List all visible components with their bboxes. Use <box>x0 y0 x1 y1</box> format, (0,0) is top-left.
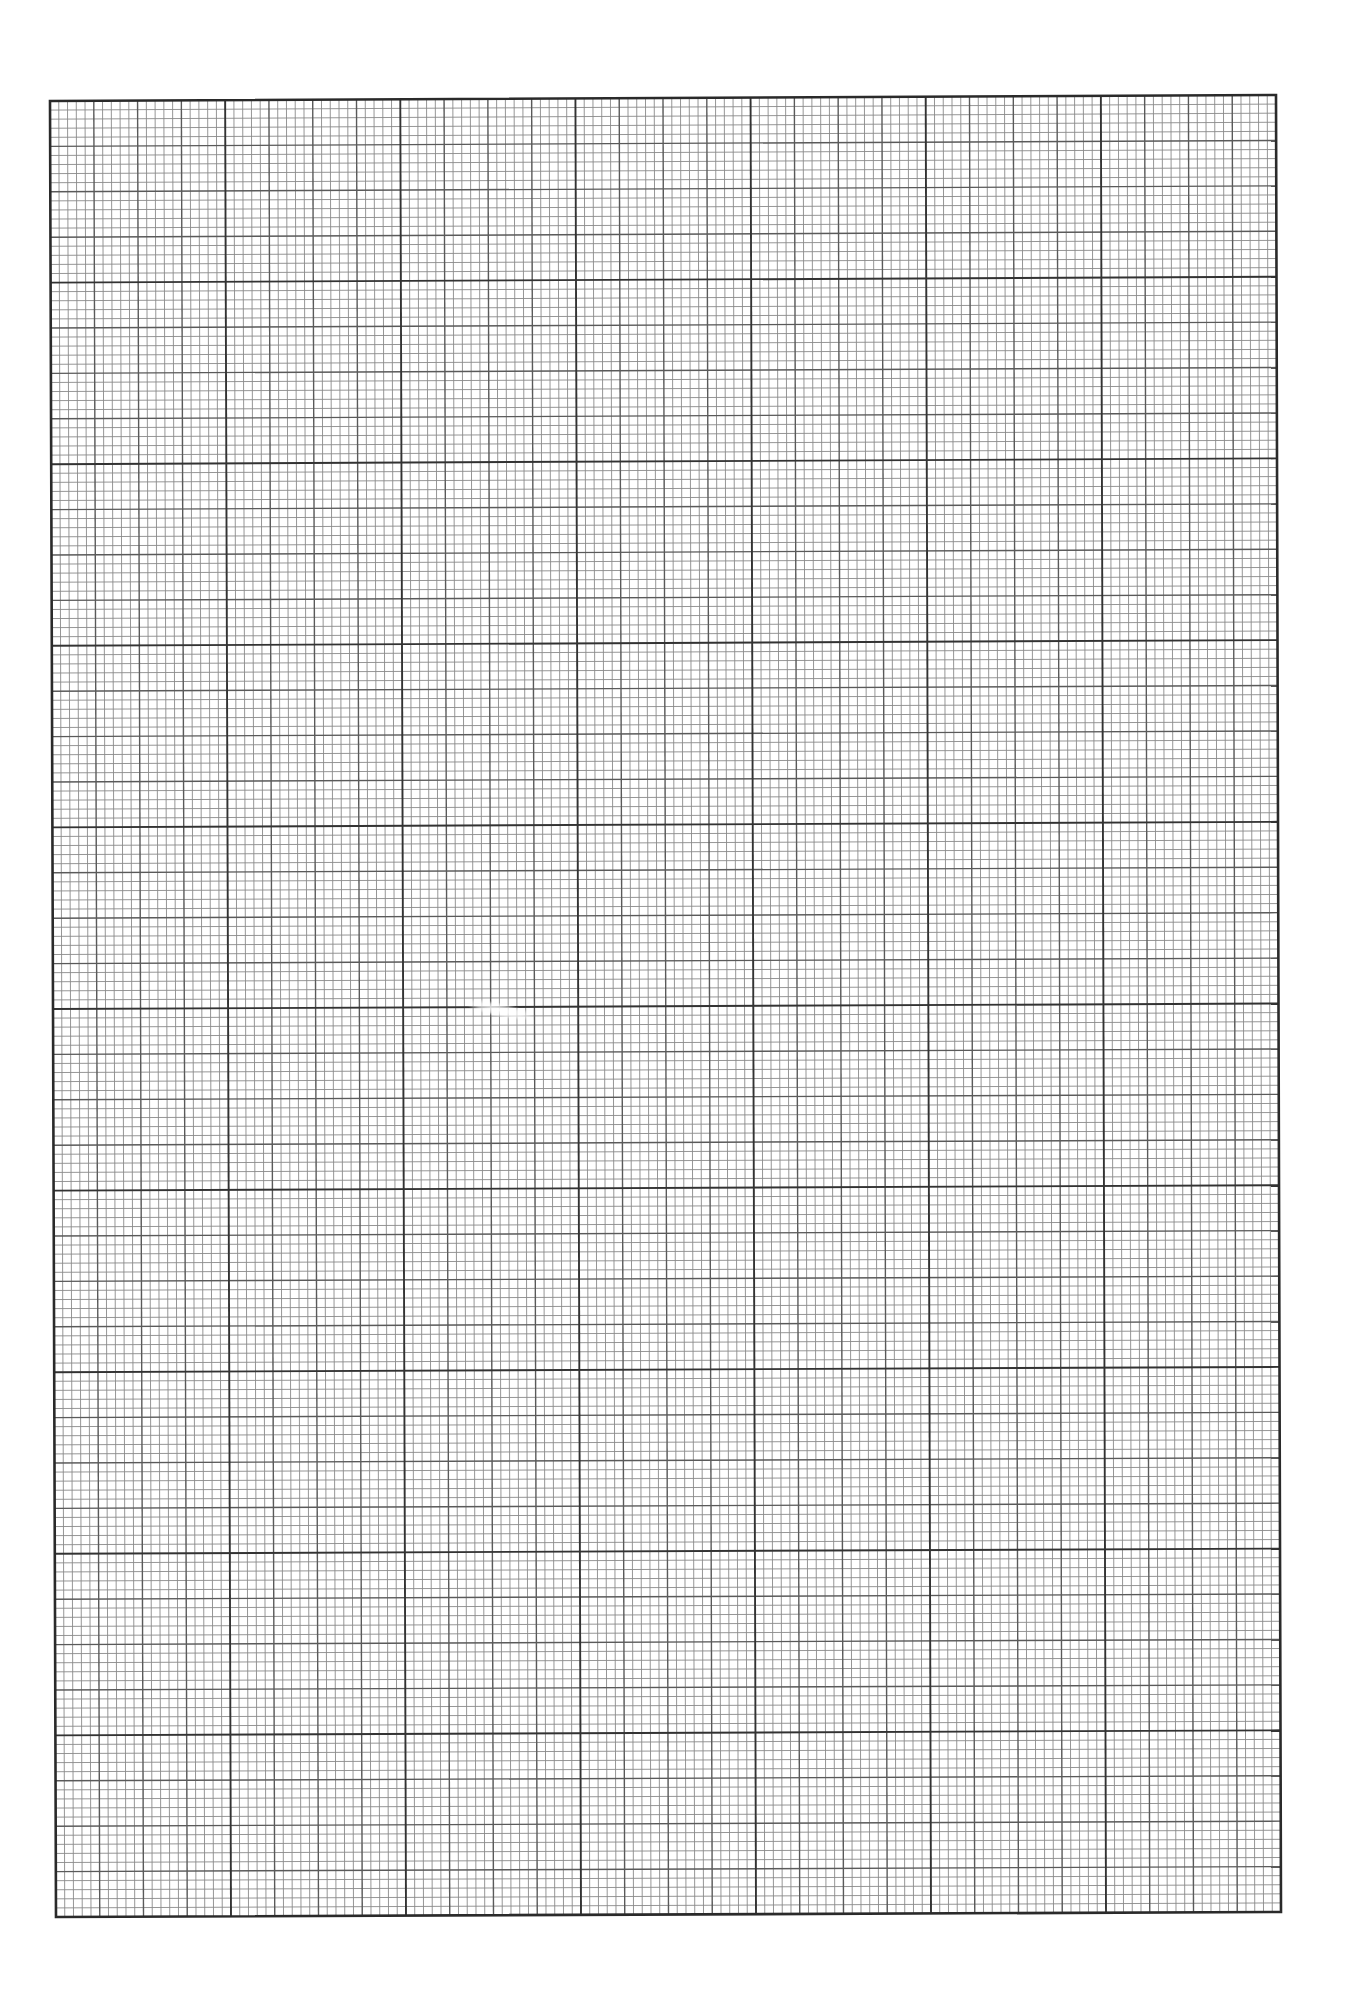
graph-grid <box>0 0 1345 2001</box>
grid-lines <box>50 95 1281 1917</box>
graph-paper-sheet <box>0 0 1345 2001</box>
